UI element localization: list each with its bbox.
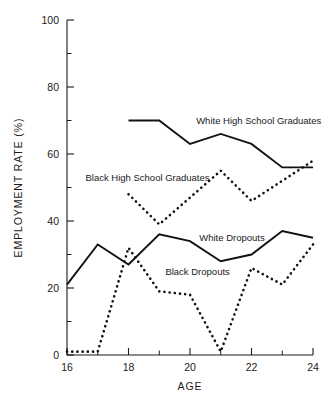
employment-rate-line-chart: 0204060801001618202224 White High School… bbox=[0, 0, 333, 400]
x-tick-label-22: 22 bbox=[246, 361, 258, 373]
axis-lines bbox=[67, 20, 313, 355]
series-label-3: Black Dropouts bbox=[165, 266, 230, 277]
series-label-1: Black High School Graduates bbox=[85, 172, 209, 183]
series-label-0: White High School Graduates bbox=[196, 115, 321, 126]
x-tick-label-18: 18 bbox=[123, 361, 135, 373]
y-tick-label-20: 20 bbox=[47, 282, 59, 294]
y-tick-label-80: 80 bbox=[47, 81, 59, 93]
y-tick-label-100: 100 bbox=[41, 14, 59, 26]
series-lines bbox=[67, 121, 313, 352]
axes: 0204060801001618202224 bbox=[41, 14, 319, 373]
y-tick-label-0: 0 bbox=[53, 349, 59, 361]
series-line-1 bbox=[129, 161, 314, 225]
x-tick-label-24: 24 bbox=[307, 361, 319, 373]
y-tick-label-40: 40 bbox=[47, 215, 59, 227]
x-axis-title: AGE bbox=[178, 380, 203, 392]
y-tick-label-60: 60 bbox=[47, 148, 59, 160]
y-axis-title: EMPLOYMENT RATE (%) bbox=[12, 118, 24, 258]
chart-canvas: 0204060801001618202224 White High School… bbox=[0, 0, 333, 400]
series-line-2 bbox=[67, 231, 313, 285]
x-tick-label-20: 20 bbox=[184, 361, 196, 373]
series-label-2: White Dropouts bbox=[199, 232, 265, 243]
series-line-0 bbox=[129, 121, 314, 168]
series-line-3 bbox=[67, 244, 313, 351]
x-tick-label-16: 16 bbox=[61, 361, 73, 373]
